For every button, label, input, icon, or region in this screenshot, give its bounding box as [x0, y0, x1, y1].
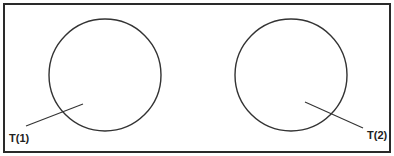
diagram-container: T(1) T(2) — [0, 0, 394, 156]
diagram-canvas — [0, 0, 394, 156]
label-t1: T(1) — [9, 133, 29, 144]
circle-t1 — [49, 19, 161, 131]
label-t2: T(2) — [367, 130, 387, 141]
diagram-frame — [4, 4, 390, 152]
circle-t2 — [235, 19, 347, 131]
leader-line-t2 — [305, 102, 363, 128]
